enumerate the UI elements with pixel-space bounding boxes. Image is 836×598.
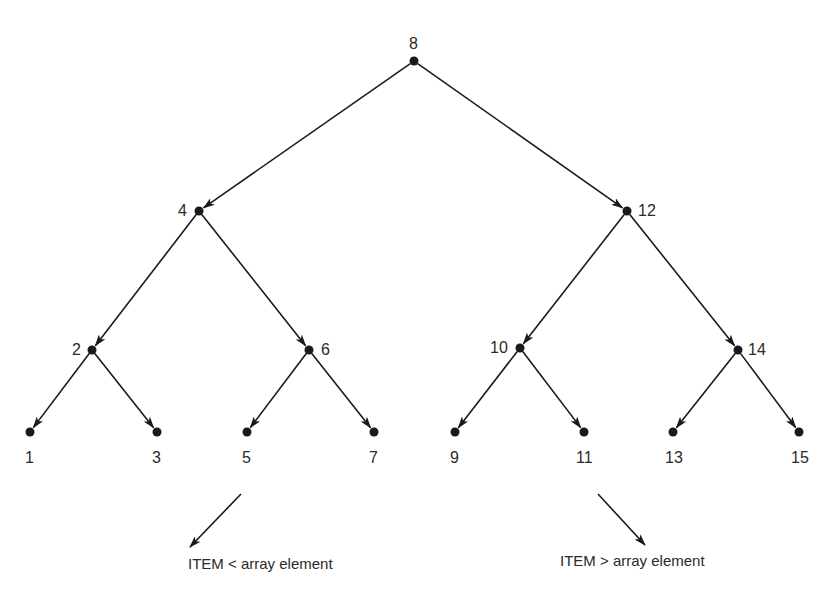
edge-12-to-14 [630,215,735,346]
node-dot-8 [410,57,419,66]
node-dot-10 [516,344,525,353]
node-label-3: 3 [152,450,161,466]
node-dot-12 [623,207,632,216]
edge-6-to-7 [312,354,371,428]
edge-2-to-3 [95,354,154,428]
edge-8-to-12 [418,64,623,208]
edge-10-to-11 [523,352,581,428]
node-label-8: 8 [409,36,418,52]
annotation-caption-right: ITEM > array element [560,553,705,569]
node-dot-4 [195,207,204,216]
node-dot-2 [88,346,97,355]
node-label-1: 1 [25,450,34,466]
edge-14-to-13 [676,354,735,428]
node-label-15: 15 [791,450,809,466]
node-dot-14 [734,346,743,355]
node-label-9: 9 [450,450,459,466]
edge-4-to-2 [95,215,196,346]
edge-8-to-4 [204,64,411,208]
node-dot-6 [305,346,314,355]
edge-6-to-5 [250,354,306,428]
edge-10-to-9 [458,352,517,428]
edge-2-to-1 [33,354,89,428]
node-dot-3 [153,428,162,437]
node-label-13: 13 [665,450,683,466]
edge-12-to-10 [523,215,624,344]
edge-4-to-6 [202,215,306,346]
node-label-4: 4 [178,203,187,219]
annotation-arrows [190,494,645,547]
node-label-10: 10 [490,340,508,356]
edge-14-to-15 [741,354,796,428]
node-dot-15 [795,428,804,437]
node-label-6: 6 [321,342,330,358]
tree-diagram [0,0,836,598]
node-label-14: 14 [748,342,766,358]
node-dot-5 [243,428,252,437]
node-dot-7 [370,428,379,437]
tree-nodes [26,57,804,437]
node-dot-13 [669,428,678,437]
node-label-7: 7 [369,450,378,466]
node-label-5: 5 [242,450,251,466]
node-dot-1 [26,428,35,437]
node-label-12: 12 [638,203,656,219]
annotation-arrow-right [598,494,645,545]
node-dot-9 [451,428,460,437]
node-dot-11 [580,428,589,437]
annotation-arrow-left [190,494,241,547]
annotation-caption-left: ITEM < array element [188,556,333,572]
node-label-2: 2 [72,342,81,358]
tree-edges [33,64,795,428]
node-label-11: 11 [576,450,593,466]
